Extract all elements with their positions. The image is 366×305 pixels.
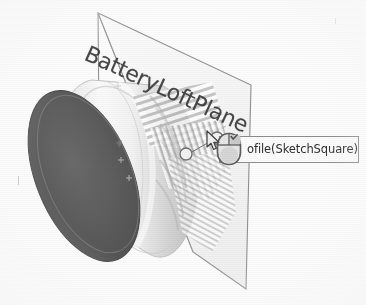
scan-speck bbox=[18, 176, 19, 185]
sketch-point-left bbox=[180, 148, 192, 160]
arrow-cursor-icon bbox=[205, 130, 221, 152]
profile-tooltip-text: ofile(SketchSquare) bbox=[247, 142, 358, 156]
scan-speck bbox=[335, 18, 336, 24]
cad-viewport[interactable]: BatteryLoftPlane ofile(SketchSquare) bbox=[0, 0, 366, 305]
